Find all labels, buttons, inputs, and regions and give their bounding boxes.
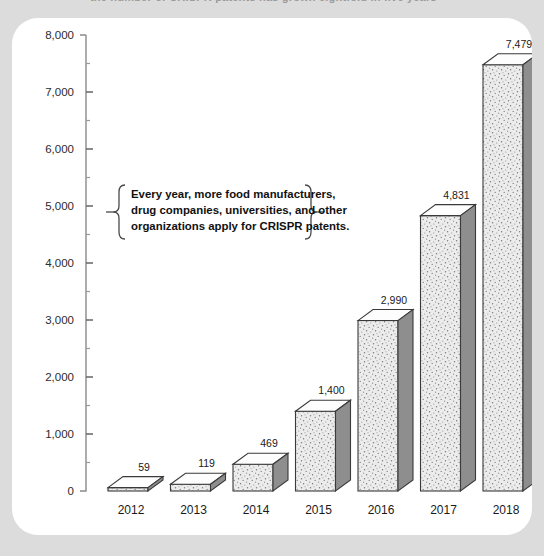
x-axis-label-2013: 2013: [180, 503, 207, 517]
x-axis-label-2012: 2012: [118, 503, 145, 517]
bar-front-face-2018: [483, 65, 523, 491]
bar-2017[interactable]: [421, 205, 476, 491]
bar-value-label-2012: 59: [138, 461, 150, 473]
bar-side-face-2017: [461, 205, 476, 491]
bar-2014[interactable]: [233, 453, 288, 491]
bar-value-label-2013: 119: [198, 457, 215, 469]
bar-series: [108, 54, 532, 491]
bar-2016[interactable]: [358, 310, 413, 491]
y-tick-label-8000: 8,000: [45, 29, 74, 41]
bar-value-label-2017: 4,831: [443, 189, 469, 201]
bar-front-face-2017: [421, 216, 461, 491]
callout-annotation: Every year, more food manufacturers,drug…: [106, 185, 349, 239]
x-axis-label-2014: 2014: [243, 503, 270, 517]
bar-2018[interactable]: [483, 54, 532, 491]
bar-front-face-2016: [358, 321, 398, 491]
y-tick-label-2000: 2,000: [45, 371, 74, 383]
y-tick-label-5000: 5,000: [45, 200, 74, 212]
callout-line-3: organizations apply for CRISPR patents.: [131, 220, 349, 232]
y-axis: 01,0002,0003,0004,0005,0006,0007,0008,00…: [45, 29, 93, 497]
y-tick-label-6000: 6,000: [45, 143, 74, 155]
bar-chart: 01,0002,0003,0004,0005,0006,0007,0008,00…: [12, 18, 532, 535]
y-tick-label-4000: 4,000: [45, 257, 74, 269]
callout-line-2: drug companies, universities, and other: [131, 204, 347, 216]
bar-2015[interactable]: [296, 400, 351, 491]
clipped-headline-text: the number of CRISPR patents has grown e…: [90, 0, 437, 3]
bar-2013[interactable]: [171, 473, 226, 491]
bar-front-face-2015: [296, 411, 336, 491]
x-axis-labels: 2012201320142015201620172018: [118, 503, 520, 517]
bar-2012[interactable]: [108, 477, 163, 491]
y-tick-label-0: 0: [68, 485, 74, 497]
bar-side-face-2018: [523, 54, 532, 491]
bar-side-face-2016: [398, 310, 413, 491]
callout-text-lines: Every year, more food manufacturers,drug…: [131, 188, 349, 232]
x-axis-label-2016: 2016: [368, 503, 395, 517]
callout-line-1: Every year, more food manufacturers,: [131, 188, 335, 200]
bar-front-face-2014: [233, 464, 273, 491]
y-tick-label-1000: 1,000: [45, 428, 74, 440]
y-tick-label-7000: 7,000: [45, 86, 74, 98]
bar-side-face-2015: [336, 400, 351, 491]
x-axis-label-2015: 2015: [305, 503, 332, 517]
y-axis-ticks: [86, 64, 93, 463]
y-tick-label-3000: 3,000: [45, 314, 74, 326]
bar-front-face-2013: [171, 484, 211, 491]
bar-value-label-2014: 469: [260, 437, 278, 449]
chart-svg: 01,0002,0003,0004,0005,0006,0007,0008,00…: [12, 18, 532, 535]
bar-value-label-2015: 1,400: [318, 384, 344, 396]
chart-card: 01,0002,0003,0004,0005,0006,0007,0008,00…: [12, 18, 532, 535]
x-axis-label-2018: 2018: [493, 503, 520, 517]
x-axis-label-2017: 2017: [430, 503, 457, 517]
bar-value-label-2018: 7,479: [506, 38, 532, 50]
bar-value-label-2016: 2,990: [381, 294, 407, 306]
y-axis-labels: 01,0002,0003,0004,0005,0006,0007,0008,00…: [45, 29, 74, 497]
clipped-headline-strip: the number of CRISPR patents has grown e…: [0, 0, 544, 14]
